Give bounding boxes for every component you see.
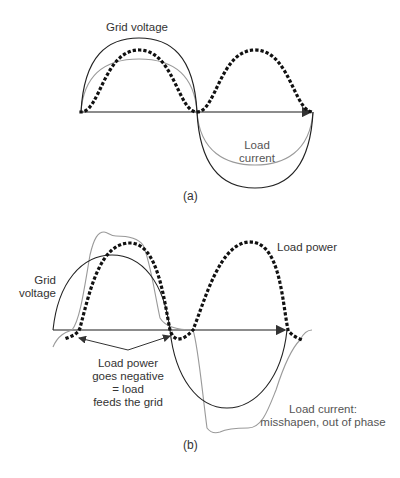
- caption-b: (b): [183, 438, 198, 452]
- label-negative-power: Load power goes negative = load feeds th…: [78, 357, 178, 409]
- label-grid-voltage-b-line1: Grid: [10, 274, 56, 287]
- label-load-current-b-line2: misshapen, out of phase: [258, 416, 388, 429]
- label-negative-power-line1: Load power: [78, 357, 178, 370]
- label-load-current-b-line1: Load current:: [258, 403, 388, 416]
- panel-a: [81, 38, 313, 188]
- negative-power-pointer-right: [128, 336, 170, 350]
- label-grid-voltage-b-line2: voltage: [10, 287, 56, 300]
- label-load-current-b: Load current: misshapen, out of phase: [258, 403, 388, 429]
- label-load-current-a: Load current: [232, 139, 282, 165]
- label-load-power-b: Load power: [277, 241, 337, 254]
- label-negative-power-line2: goes negative: [78, 370, 178, 383]
- load-power-curve-b: [67, 242, 302, 340]
- label-negative-power-line3: = load: [78, 383, 178, 396]
- label-load-current-a-line1: Load: [232, 139, 282, 152]
- caption-a: (a): [183, 189, 198, 203]
- negative-power-pointer-left: [79, 338, 128, 350]
- label-negative-power-line4: feeds the grid: [78, 396, 178, 409]
- label-grid-voltage-a: Grid voltage: [106, 21, 168, 34]
- load-power-curve-a: [81, 50, 313, 112]
- label-load-current-a-line2: current: [232, 152, 282, 165]
- label-grid-voltage-b: Grid voltage: [10, 274, 56, 300]
